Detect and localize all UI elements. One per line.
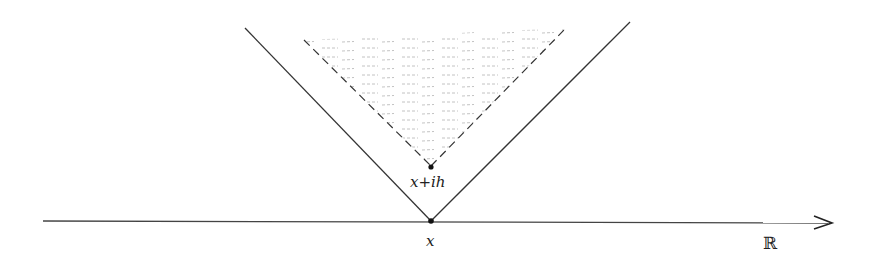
vertex-point-dot	[428, 218, 434, 224]
cone-diagram: x+ih x ℝ	[0, 0, 873, 273]
axis-label: ℝ	[763, 233, 778, 253]
real-axis	[43, 221, 828, 223]
shifted-point-label: x+ih	[410, 173, 446, 191]
shaded-region	[304, 28, 566, 166]
shifted-point-dot	[428, 164, 433, 169]
vertex-point-label: x	[426, 232, 435, 250]
